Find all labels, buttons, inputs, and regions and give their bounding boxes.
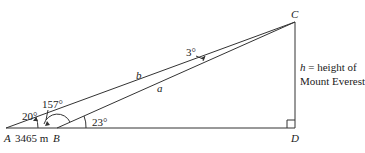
point-label-D: D: [290, 132, 299, 144]
everest-triangle-diagram: A 3465 m B C D b a 20° 157° 23° 3° h = h…: [0, 0, 365, 153]
angle-arrow-B: [45, 121, 50, 126]
height-label-rest: = height of: [306, 61, 357, 73]
angle-arc-B-exterior: [84, 116, 86, 128]
right-angle-marker: [287, 120, 295, 128]
height-label-line1: h = height of: [300, 61, 357, 73]
height-label-line2: Mount Everest: [300, 75, 365, 87]
side-label-a: a: [157, 82, 163, 94]
distance-AB-label: 3465 m: [15, 132, 49, 144]
side-label-b: b: [136, 69, 142, 81]
point-label-A: A: [3, 132, 11, 144]
angle-label-ABC: 157°: [42, 98, 63, 110]
angle-label-A: 20°: [22, 110, 37, 122]
side-a-BC: [57, 22, 295, 128]
point-label-B: B: [53, 132, 60, 144]
angle-label-C: 3°: [186, 46, 196, 58]
side-b-AC: [6, 22, 295, 128]
point-label-C: C: [291, 8, 299, 20]
angle-label-B-ext: 23°: [92, 116, 107, 128]
